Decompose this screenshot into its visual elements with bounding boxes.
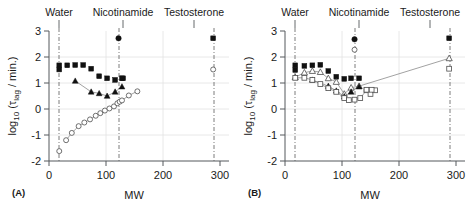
panel-a-x-axis-title: MW: [124, 189, 144, 201]
data-point-filled-squares-7: [113, 77, 118, 82]
series-open-circle-nicotinamide: [352, 47, 357, 52]
data-point-filled-squares-2: [73, 63, 78, 68]
data-point-open-squares-0: [293, 75, 298, 80]
data-point-open-squares-6: [342, 96, 347, 101]
data-point-filled-squares-7: [349, 76, 354, 81]
data-point-open-triangles-9: [446, 55, 452, 61]
xtick-label-300: 300: [447, 169, 465, 181]
panel-a-y-ticks: 3 2 1 0 -1 -2: [31, 25, 49, 167]
data-point-open-circles-14: [135, 89, 140, 94]
data-point-open-squares-4: [326, 86, 331, 91]
ylabel-unit: / min.): [6, 57, 18, 91]
data-point-filled-squares-1: [65, 63, 70, 68]
data-point-filled-squares-2: [310, 63, 315, 68]
panel-b: Water Nicotinamide Testosterone: [238, 0, 475, 210]
ylabel-unit: / min.): [242, 57, 254, 91]
data-point-filled-square-low-water-0: [293, 68, 298, 73]
data-point-open-circles-6: [98, 111, 103, 116]
data-point-filled-squares-3: [81, 63, 86, 68]
series-open-squares-right-pair: [364, 87, 374, 92]
ytick-label-2: 2: [35, 51, 41, 63]
data-point-open-circle-nicotinamide-0: [352, 47, 357, 52]
data-point-filled-squares-6: [105, 76, 110, 81]
series-filled-square-testosterone: [447, 36, 452, 41]
ytick-label-m2: -2: [31, 155, 41, 167]
reference-label-nicotinamide: Nicotinamide: [329, 6, 390, 18]
data-point-open-squares-9: [358, 96, 363, 101]
ytick-label-m2: -2: [267, 155, 277, 167]
data-point-open-squares-3: [318, 82, 323, 87]
data-point-open-squares-7: [346, 98, 351, 103]
series-filled-square-low-water: [293, 68, 298, 73]
reference-label-testosterone: Testosterone: [164, 6, 224, 18]
panel-b-x-axis-title: MW: [360, 189, 380, 201]
data-point-filled-square-testosterone-0: [447, 36, 452, 41]
panel-a-plot-area: 3 2 1 0 -1 -2 0 100 200 300: [31, 25, 229, 181]
svg-text:log10 (τlag / min.): log10 (τlag / min.): [242, 57, 257, 136]
data-point-filled-triangles-0: [72, 78, 78, 83]
panel-b-y-ticks: 3 2 1 0 -1 -2: [267, 25, 285, 167]
series-filled-circle-nicotinamide: [352, 37, 357, 42]
data-point-open-squares-5: [334, 89, 339, 94]
data-point-open-circles-2: [76, 124, 81, 129]
data-point-filled-squares-right-1: [211, 36, 216, 41]
xtick-label-0: 0: [46, 169, 52, 181]
data-point-filled-triangles-1: [88, 89, 94, 94]
figure-container: Water Nicotinamide Testosterone: [0, 0, 475, 210]
data-point-open-circles-5: [93, 113, 98, 118]
data-point-open-circles-1: [69, 130, 74, 135]
data-point-open-circles-13: [126, 93, 131, 98]
data-point-open-circles-4: [88, 117, 93, 122]
series-line-open-circles: [66, 91, 137, 140]
panel-b-svg: Water Nicotinamide Testosterone: [238, 0, 475, 210]
ytick-label-0: 0: [271, 103, 277, 115]
ytick-label-2: 2: [271, 51, 277, 63]
data-point-open-squares-1: [302, 75, 307, 80]
panel-b-tag: (B): [248, 187, 261, 198]
xtick-label-200: 200: [154, 169, 172, 181]
panel-b-y-axis-title: log10 (τlag / min.): [242, 57, 257, 136]
data-point-open-circles-3: [82, 120, 87, 125]
data-point-filled-squares-8: [357, 76, 362, 81]
xtick-label-200: 200: [390, 169, 408, 181]
data-point-filled-square-low-water-0: [57, 67, 62, 72]
panel-a-svg: Water Nicotinamide Testosterone: [0, 0, 237, 210]
panel-a: Water Nicotinamide Testosterone: [0, 0, 237, 210]
panel-a-reference-labels: Water Nicotinamide Testosterone: [45, 6, 224, 28]
ytick-label-0: 0: [35, 103, 41, 115]
ylabel-log: log: [6, 121, 18, 136]
data-point-filled-circle-nicotinamide-0: [116, 36, 121, 41]
data-point-open-squares-right-pair-1: [369, 87, 374, 92]
ytick-label-3: 3: [35, 25, 41, 37]
panel-a-tag: (A): [12, 187, 25, 198]
reference-label-water: Water: [45, 6, 73, 18]
ytick-label-m1: -1: [267, 129, 277, 141]
data-point-filled-squares-6: [342, 76, 347, 81]
data-point-filled-squares-3: [318, 62, 323, 67]
xtick-label-0: 0: [282, 169, 288, 181]
data-point-open-squares-2: [310, 77, 315, 82]
panel-b-reference-labels: Water Nicotinamide Testosterone: [281, 6, 460, 28]
data-point-open-circles-12: [119, 98, 124, 103]
data-point-filled-squares-4: [89, 66, 94, 71]
ylabel-log: log: [242, 121, 254, 136]
data-point-open-triangles-4: [325, 75, 331, 81]
reference-label-water: Water: [281, 6, 309, 18]
data-point-filled-squares-5: [97, 74, 102, 79]
data-point-filled-circle-nicotinamide-0: [352, 37, 357, 42]
series-filled-circle-nicotinamide: [116, 36, 121, 41]
data-point-filled-triangles-5: [119, 84, 125, 89]
ytick-label-1: 1: [271, 77, 277, 89]
panel-a-y-axis-title: log10 (τlag / min.): [6, 57, 21, 136]
series-open-square-testosterone: [447, 66, 452, 71]
reference-label-nicotinamide: Nicotinamide: [93, 6, 154, 18]
data-point-open-circle-testosterone-0: [211, 67, 216, 72]
data-point-open-square-testosterone-0: [447, 66, 452, 71]
panel-a-x-ticks: 0 100 200 300: [46, 161, 229, 181]
panel-b-x-ticks: 0 100 200 300: [282, 161, 465, 181]
data-point-filled-squares-0: [293, 63, 298, 68]
data-point-open-triangles-2: [309, 68, 315, 74]
ylabel-sub: lag: [248, 90, 257, 101]
series-filled-squares: [57, 63, 126, 83]
data-point-open-squares-8: [352, 97, 357, 102]
